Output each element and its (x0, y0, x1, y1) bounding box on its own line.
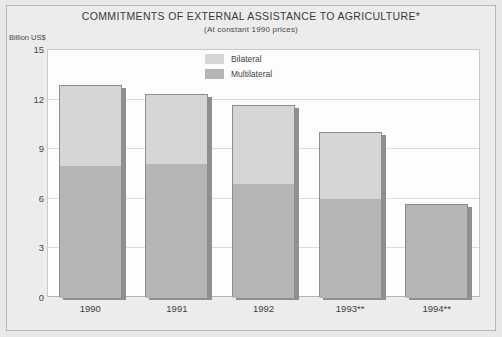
x-axis-tick-label: 1994** (393, 303, 480, 314)
y-axis-unit-label: Billion US$ (9, 33, 46, 42)
chart-legend: Bilateral Multilateral (205, 52, 325, 82)
bar-group[interactable] (405, 204, 468, 297)
bar-stack[interactable] (145, 94, 208, 297)
bar-group[interactable] (232, 105, 295, 297)
x-axis-tick-label: 1991 (134, 303, 221, 314)
bar-stack[interactable] (405, 204, 468, 297)
legend-item-label: Bilateral (231, 54, 262, 64)
legend-item-label: Multilateral (231, 69, 272, 79)
bar-group[interactable] (145, 94, 208, 297)
y-axis-tick-label: 0 (8, 292, 44, 303)
x-axis-tick-label: 1990 (47, 303, 134, 314)
legend-swatch-icon (205, 69, 224, 79)
legend-swatch-icon (205, 54, 224, 64)
bar-segment-bilateral[interactable] (320, 133, 381, 199)
legend-item-bilateral: Bilateral (205, 52, 325, 65)
bar-group[interactable] (59, 85, 122, 297)
bar-group[interactable] (319, 132, 382, 297)
legend-item-multilateral: Multilateral (205, 67, 325, 80)
chart-title: COMMITMENTS OF EXTERNAL ASSISTANCE TO AG… (0, 10, 502, 22)
bar-series-container: 1990199119921993**1994** (47, 49, 480, 297)
bar-segment-multilateral[interactable] (406, 205, 467, 298)
y-axis-tick-label: 6 (8, 192, 44, 203)
bar-segment-bilateral[interactable] (60, 86, 121, 165)
bar-segment-bilateral[interactable] (146, 95, 207, 164)
y-axis-tick-label: 15 (8, 44, 44, 55)
x-axis-tick-label: 1993** (307, 303, 394, 314)
bar-segment-multilateral[interactable] (233, 184, 294, 298)
bar-segment-multilateral[interactable] (60, 166, 121, 298)
bar-segment-bilateral[interactable] (233, 106, 294, 184)
y-axis-tick-label: 9 (8, 143, 44, 154)
bar-stack[interactable] (232, 105, 295, 297)
y-axis-tick-label: 12 (8, 93, 44, 104)
chart-subtitle: (At constant 1990 prices) (0, 25, 502, 34)
bar-segment-multilateral[interactable] (146, 164, 207, 298)
y-axis: 15129630 (0, 49, 44, 297)
bar-stack[interactable] (319, 132, 382, 297)
bar-segment-multilateral[interactable] (320, 199, 381, 298)
x-axis-tick-label: 1992 (220, 303, 307, 314)
chart-figure: COMMITMENTS OF EXTERNAL ASSISTANCE TO AG… (0, 0, 502, 337)
y-axis-tick-label: 3 (8, 242, 44, 253)
bar-stack[interactable] (59, 85, 122, 297)
